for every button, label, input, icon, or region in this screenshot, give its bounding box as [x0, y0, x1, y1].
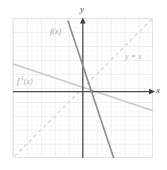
y-axis-label: y — [80, 5, 84, 14]
x-axis-label: x — [156, 86, 160, 95]
identity-line-label: y = x — [125, 53, 142, 61]
inverse-label-argument: (x) — [24, 77, 33, 86]
function-label: f(x) — [50, 28, 61, 36]
inverse-function-label: f-1(x) — [17, 76, 33, 86]
inverse-function-graph-figure: f(x) f-1(x) y = x x y — [0, 0, 167, 170]
